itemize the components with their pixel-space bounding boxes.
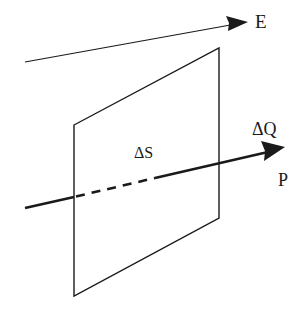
label-p: P xyxy=(278,171,288,189)
axis-line-p-dashed xyxy=(76,178,155,197)
surface-delta-s xyxy=(74,48,219,296)
label-delta-s: ΔS xyxy=(134,145,153,161)
arrowhead-p-icon xyxy=(261,141,285,161)
axis-line-p-left xyxy=(25,197,74,208)
label-e: E xyxy=(255,12,267,31)
axis-line-p-right xyxy=(155,152,268,178)
diagram-canvas: E ΔQ ΔS P xyxy=(0,0,299,317)
label-delta-q: ΔQ xyxy=(252,120,277,138)
arrowhead-e-icon xyxy=(226,16,248,31)
